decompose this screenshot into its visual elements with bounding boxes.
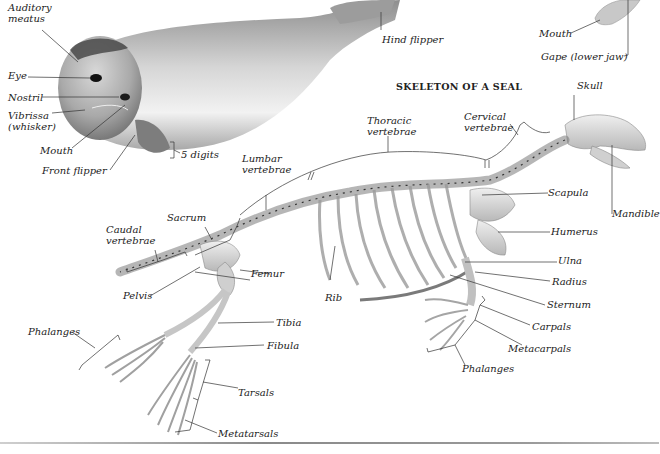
label-metacarpals: Metacarpals bbox=[508, 343, 571, 354]
label-5-digits: 5 digits bbox=[181, 149, 219, 160]
label-carpals: Carpals bbox=[532, 321, 571, 332]
label-auditory-meatus: Auditory meatus bbox=[8, 2, 52, 24]
seal-head-inset bbox=[595, 0, 640, 25]
seal-photo bbox=[58, 0, 400, 153]
label-hind-phalanges: Phalanges bbox=[28, 326, 80, 337]
label-mouth: Mouth bbox=[40, 145, 73, 156]
label-ulna: Ulna bbox=[558, 255, 582, 266]
label-fibula: Fibula bbox=[267, 340, 299, 351]
label-inset-mouth: Mouth bbox=[539, 28, 572, 39]
label-tibia: Tibia bbox=[276, 317, 301, 328]
label-skull: Skull bbox=[577, 80, 603, 91]
bottom-divider bbox=[0, 442, 659, 444]
label-fore-phalanges: Phalanges bbox=[462, 363, 514, 374]
label-radius: Radius bbox=[552, 276, 587, 287]
label-lumbar-vertebrae: Lumbar vertebrae bbox=[242, 153, 291, 175]
label-mandible: Mandible bbox=[612, 208, 660, 219]
label-humerus: Humerus bbox=[551, 226, 598, 237]
label-nostril: Nostril bbox=[8, 92, 43, 103]
label-rib: Rib bbox=[325, 292, 342, 303]
label-femur: Femur bbox=[251, 268, 284, 279]
label-scapula: Scapula bbox=[548, 187, 588, 198]
label-cervical-vertebrae: Cervical vertebrae bbox=[464, 111, 513, 133]
label-thoracic-vertebrae: Thoracic vertebrae bbox=[367, 115, 416, 137]
label-tarsals: Tarsals bbox=[238, 387, 274, 398]
label-front-flipper: Front flipper bbox=[42, 165, 107, 176]
label-gape-lower-jaw: Gape (lower jaw) bbox=[541, 51, 628, 62]
figure-title: SKELETON OF A SEAL bbox=[396, 81, 522, 92]
label-caudal-vertebrae: Caudal vertebrae bbox=[106, 224, 155, 246]
label-sternum: Sternum bbox=[547, 299, 591, 310]
label-hind-flipper: Hind flipper bbox=[382, 34, 443, 45]
label-metatarsals: Metatarsals bbox=[218, 428, 278, 439]
label-eye: Eye bbox=[8, 70, 27, 81]
label-pelvis: Pelvis bbox=[123, 290, 152, 301]
label-sacrum: Sacrum bbox=[167, 212, 206, 223]
label-vibrissa: Vibrissa (whisker) bbox=[8, 110, 56, 132]
